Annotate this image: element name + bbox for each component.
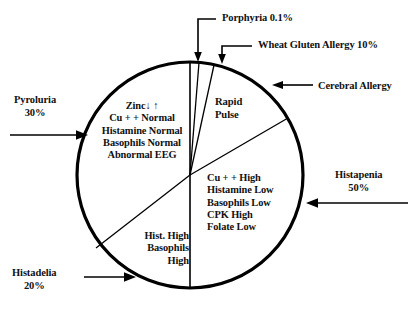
callout-label-wheat-gluten-allergy: Wheat Gluten Allergy 10% — [258, 38, 378, 51]
sector-text-cerebral-allergy: Rapid Pulse — [215, 96, 271, 121]
callout-leader-histadelia — [84, 272, 136, 281]
callout-label-cerebral-allergy: Cerebral Allergy — [318, 79, 392, 92]
pie-diagram: Zinc↓ ↑ Cu + + Normal Histamine Normal B… — [0, 0, 418, 320]
sector-text-line: CPK High — [207, 209, 307, 221]
sector-text-line: Zinc↓ ↑ — [84, 100, 200, 112]
sector-text-histapenia: Cu + + High Histamine Low Basophils Low … — [207, 172, 307, 233]
callout-label-histadelia: Histadelia 20% — [12, 266, 57, 292]
callout-label-name: Pyroluria — [14, 93, 56, 106]
sector-text-line: Cu + + High — [207, 172, 307, 184]
sector-text-line: Cu + + Normal — [84, 112, 200, 124]
callout-label-histapenia: Histapenia 50% — [335, 168, 382, 194]
sector-text-line: Histamine Normal — [84, 125, 200, 137]
callout-label-percent: 20% — [12, 279, 57, 292]
callout-label-percent: 50% — [335, 181, 382, 194]
sector-text-line: Rapid — [215, 96, 271, 109]
sector-text-line: Abnormal EEG — [84, 149, 200, 161]
callout-leader-histapenia — [306, 198, 408, 207]
sector-text-line: Pulse — [215, 109, 271, 122]
sector-text-pyroluria: Zinc↓ ↑ Cu + + Normal Histamine Normal B… — [84, 100, 200, 161]
callout-label-percent: 30% — [14, 106, 56, 119]
callout-leader-porphyria — [194, 19, 216, 62]
sector-text-line: Basophils Normal — [84, 137, 200, 149]
sector-text-line: Folate Low — [207, 221, 307, 233]
callout-leader-pyroluria — [10, 130, 88, 139]
sector-text-line: Hist. High — [116, 230, 189, 242]
sector-text-line: Basophils — [116, 242, 189, 254]
callout-leader-wheat-gluten — [218, 46, 252, 64]
sector-text-line: Basophils Low — [207, 197, 307, 209]
sector-text-histadelia: Hist. High Basophils High — [116, 230, 189, 267]
callout-label-name: Histapenia — [335, 168, 382, 181]
callout-label-porphyria: Porphyria 0.1% — [222, 11, 293, 24]
sector-text-line: High — [116, 255, 189, 267]
callout-label-pyroluria: Pyroluria 30% — [14, 93, 56, 119]
callout-label-name: Histadelia — [12, 266, 57, 279]
sector-text-line: Histamine Low — [207, 184, 307, 196]
callout-leader-cerebral-allergy — [272, 81, 313, 89]
